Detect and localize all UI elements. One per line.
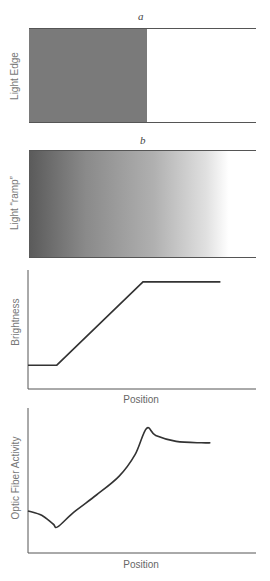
brightness-xlabel: Position — [123, 394, 159, 405]
optic-fiber-activity-line — [28, 428, 210, 528]
optic-fiber-ylabel: Optic Fiber Activity — [10, 437, 21, 520]
brightness-line — [28, 282, 220, 365]
brightness-ylabel: Brightness — [10, 298, 21, 345]
optic-fiber-chart — [28, 408, 256, 553]
charts-svg — [0, 0, 270, 581]
brightness-chart — [28, 270, 256, 389]
optic-fiber-xlabel: Position — [123, 559, 159, 570]
